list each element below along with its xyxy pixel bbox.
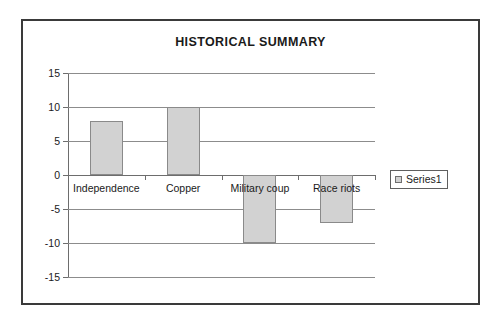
value-axis-label: -5 <box>51 203 60 215</box>
gridline-10 <box>68 107 375 108</box>
chart-title: HISTORICAL SUMMARY <box>23 35 478 49</box>
chart-legend[interactable]: Series1 <box>390 170 448 189</box>
value-tick--10 <box>63 243 68 244</box>
value-tick--5 <box>63 209 68 210</box>
gridline--10 <box>68 243 375 244</box>
bar[interactable] <box>167 107 200 175</box>
value-axis-label: 0 <box>54 169 60 181</box>
category-tick <box>375 175 376 180</box>
chart-frame: HISTORICAL SUMMARY 151050-5-10-15 Indepe… <box>21 19 480 305</box>
category-axis-label: Race riots <box>313 182 360 194</box>
value-axis-label: -15 <box>45 271 60 283</box>
value-tick-0 <box>63 175 68 176</box>
gridline--15 <box>68 277 375 278</box>
category-axis-label: Copper <box>166 182 200 194</box>
value-tick--15 <box>63 277 68 278</box>
category-axis-label: Independence <box>73 182 140 194</box>
value-axis-label: 5 <box>54 135 60 147</box>
plot-area: 151050-5-10-15 IndependenceCopperMilitar… <box>68 73 375 277</box>
value-axis-label: 15 <box>48 67 60 79</box>
value-axis-label: 10 <box>48 101 60 113</box>
legend-label-series1: Series1 <box>406 173 442 185</box>
category-tick <box>222 175 223 180</box>
gridline-15 <box>68 73 375 74</box>
category-tick <box>298 175 299 180</box>
value-axis-label: -10 <box>45 237 60 249</box>
value-tick-5 <box>63 141 68 142</box>
value-tick-10 <box>63 107 68 108</box>
category-axis-label: Military coup <box>230 182 289 194</box>
value-tick-15 <box>63 73 68 74</box>
bar[interactable] <box>90 121 123 175</box>
category-tick <box>145 175 146 180</box>
legend-swatch-series1 <box>395 176 402 183</box>
